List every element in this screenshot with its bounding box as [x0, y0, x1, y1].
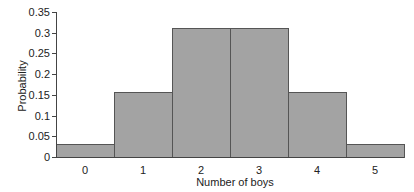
- x-tick-label: 1: [133, 164, 153, 176]
- x-axis-label: Number of boys: [180, 176, 290, 188]
- x-tick-label: 2: [191, 164, 211, 176]
- x-tick-label: 0: [75, 164, 95, 176]
- bar-2: [172, 28, 231, 158]
- y-tick-label: 0.35: [10, 6, 50, 18]
- y-tick-label: 0: [10, 151, 50, 163]
- y-tick-label: 0.05: [10, 130, 50, 142]
- bar-3: [230, 28, 289, 158]
- y-tick-label: 0.15: [10, 89, 50, 101]
- x-tick-label: 5: [365, 164, 385, 176]
- y-tick-label: 0.3: [10, 27, 50, 39]
- histogram-chart: Probability 00.050.10.150.20.250.30.35 0…: [0, 0, 414, 192]
- bar-1: [114, 92, 173, 158]
- y-tick-label: 0.1: [10, 110, 50, 122]
- x-tick-label: 3: [249, 164, 269, 176]
- y-tick-label: 0.2: [10, 68, 50, 80]
- x-axis-line: [56, 157, 404, 158]
- bar-0: [56, 144, 115, 158]
- bar-4: [288, 92, 347, 158]
- x-tick-label: 4: [307, 164, 327, 176]
- y-axis-line: [56, 12, 57, 158]
- bar-5: [346, 144, 405, 158]
- y-tick-label: 0.25: [10, 47, 50, 59]
